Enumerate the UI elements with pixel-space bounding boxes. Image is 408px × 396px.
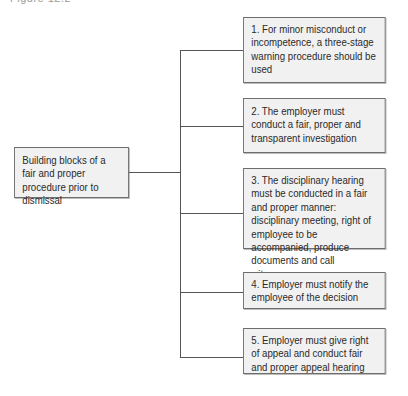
root-node: Building blocks of a fair and proper pro… — [14, 147, 129, 198]
branch-connector-5 — [180, 357, 243, 358]
step-node-3: 3. The disciplinary hearing must be cond… — [243, 168, 386, 249]
root-node-label: Building blocks of a fair and proper pro… — [22, 154, 120, 208]
step-node-label: 4. Employer must notify the employee of … — [251, 278, 377, 305]
trunk-connector — [180, 50, 181, 358]
root-connector — [129, 172, 181, 173]
step-node-2: 2. The employer must conduct a fair, pro… — [243, 98, 386, 153]
step-node-label: 3. The disciplinary hearing must be cond… — [251, 174, 377, 281]
branch-connector-4 — [180, 292, 243, 293]
step-node-label: 2. The employer must conduct a fair, pro… — [251, 105, 377, 145]
branch-connector-3 — [180, 213, 243, 214]
step-node-label: 5. Employer must give right of appeal an… — [251, 334, 377, 374]
step-node-5: 5. Employer must give right of appeal an… — [243, 328, 386, 374]
branch-connector-1 — [180, 50, 243, 51]
step-node-label: 1. For minor misconduct or incompetence,… — [251, 23, 377, 77]
branch-connector-2 — [180, 126, 243, 127]
step-node-1: 1. For minor misconduct or incompetence,… — [243, 17, 386, 83]
step-node-4: 4. Employer must notify the employee of … — [243, 272, 386, 309]
figure-caption-fragment: Figure 12.2 — [10, 0, 71, 4]
